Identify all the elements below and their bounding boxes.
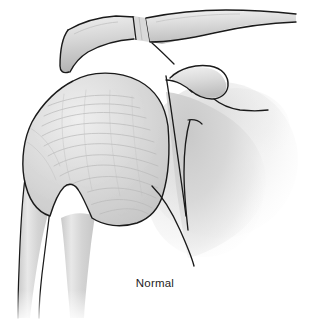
clavicle (146, 10, 296, 64)
scapula-fade-overlay (160, 206, 310, 323)
shoulder-anatomy-illustration (0, 0, 310, 323)
shoulder-anatomy-figure: Normal (0, 0, 310, 323)
acromion (60, 16, 136, 73)
humeral-head (23, 73, 169, 226)
